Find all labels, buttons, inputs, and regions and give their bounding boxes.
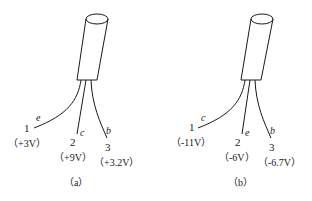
- diagram-svg: e 1 （+3V） c 2 （+9V） b 3 （+3.2V） （a）: [0, 0, 312, 201]
- panel-caption: （a）: [64, 177, 88, 188]
- transistor-body-b: [241, 14, 273, 80]
- voltage-label: （+9V）: [54, 152, 92, 163]
- terminal-label: c: [80, 127, 85, 138]
- voltage-label: （-6.7V）: [258, 157, 301, 168]
- terminal-label: e: [245, 127, 250, 138]
- lead-3-b: [255, 80, 271, 138]
- lead-3-a: [91, 80, 107, 138]
- terminal-label: e: [36, 112, 41, 123]
- lead-2-a: [77, 80, 86, 134]
- panel-caption: （b）: [228, 177, 253, 188]
- voltage-label: （+3.2V）: [94, 157, 139, 168]
- lead-number: 2: [235, 136, 241, 148]
- leads-a: [34, 80, 107, 138]
- transistor-body-a: [77, 14, 108, 80]
- lead-number: 3: [105, 141, 111, 153]
- lead-1-a: [34, 80, 81, 128]
- voltage-label: （+3V）: [8, 138, 46, 149]
- lead-number: 2: [70, 136, 76, 148]
- lead-number: 1: [24, 122, 30, 134]
- terminal-label: b: [270, 125, 275, 136]
- lead-number: 3: [269, 141, 275, 153]
- lead-number: 1: [189, 121, 195, 133]
- terminal-label: c: [201, 112, 206, 123]
- terminal-label: b: [106, 125, 111, 136]
- panel-a: e 1 （+3V） c 2 （+9V） b 3 （+3.2V） （a）: [8, 14, 139, 188]
- voltage-label: （-11V）: [171, 137, 211, 148]
- voltage-label: （-6V）: [219, 152, 255, 163]
- panel-b: c 1 （-11V） e 2 （-6V） b 3 （-6.7V） （b）: [171, 14, 301, 188]
- transistor-diagram: e 1 （+3V） c 2 （+9V） b 3 （+3.2V） （a）: [0, 0, 312, 201]
- leads-b: [198, 80, 271, 138]
